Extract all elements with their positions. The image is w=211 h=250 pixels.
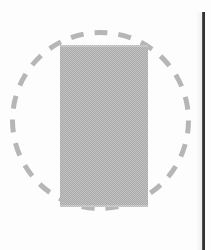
page-edge-rule bbox=[202, 12, 205, 250]
figure-canvas: Dashed circle enclosing solid grey recta… bbox=[0, 0, 211, 250]
grey-rectangle bbox=[60, 45, 148, 207]
